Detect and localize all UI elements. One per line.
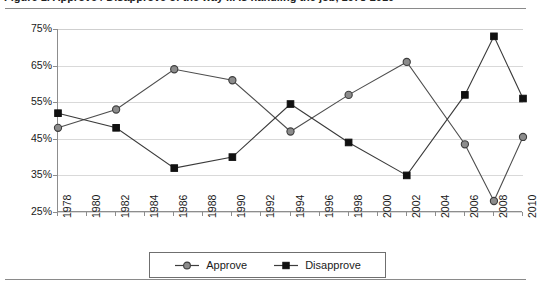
legend-label: Disapprove xyxy=(305,259,361,271)
x-axis-tick-mark xyxy=(319,212,320,216)
x-axis-tick-mark xyxy=(435,212,436,216)
data-point-disapprove xyxy=(462,92,469,99)
legend-item-approve: Approve xyxy=(174,259,247,271)
y-axis-tick-mark xyxy=(53,29,57,30)
legend-item-disapprove: Disapprove xyxy=(273,259,361,271)
y-axis-tick-label: 25% xyxy=(20,205,52,217)
data-point-approve xyxy=(113,106,120,113)
x-axis-tick-label: 1978 xyxy=(61,195,73,218)
legend-marker-square-icon xyxy=(273,260,299,271)
data-point-approve xyxy=(461,141,468,148)
x-axis-tick-mark xyxy=(348,212,349,216)
data-point-disapprove xyxy=(287,101,294,108)
x-axis-tick-label: 1982 xyxy=(119,195,131,218)
x-axis-tick-label: 2008 xyxy=(497,195,509,218)
x-axis-tick-label: 1988 xyxy=(206,195,218,218)
x-axis-tick-mark xyxy=(522,212,523,216)
x-axis-tick-mark xyxy=(377,212,378,216)
x-axis-tick-label: 2006 xyxy=(468,195,480,218)
chart-figure: 75%65%55%45%35%25% 197819801982198419861… xyxy=(0,9,531,277)
data-point-approve xyxy=(287,128,294,135)
data-point-disapprove xyxy=(520,95,527,102)
y-axis-tick-label: 75% xyxy=(20,22,52,34)
plot-area xyxy=(57,29,522,212)
x-axis-tick-mark xyxy=(57,212,58,216)
bottom-divider xyxy=(5,279,526,280)
x-axis-tick-label: 1986 xyxy=(177,195,189,218)
legend-label: Approve xyxy=(206,259,247,271)
x-axis-tick-mark xyxy=(86,212,87,216)
data-point-approve xyxy=(403,58,410,65)
data-point-approve xyxy=(519,133,526,140)
data-point-disapprove xyxy=(113,125,120,132)
x-axis-tick-mark xyxy=(202,212,203,216)
data-point-disapprove xyxy=(491,33,498,40)
x-axis-tick-mark xyxy=(231,212,232,216)
x-axis-tick-label: 1998 xyxy=(352,195,364,218)
x-axis-tick-mark xyxy=(464,212,465,216)
x-axis-tick-label: 1994 xyxy=(294,195,306,218)
y-axis-tick-label: 45% xyxy=(20,132,52,144)
x-axis-tick-label: 2002 xyxy=(410,195,422,218)
chart-legend: ApproveDisapprove xyxy=(149,252,386,278)
data-point-disapprove xyxy=(171,165,178,172)
x-axis-tick-label: 1990 xyxy=(235,195,247,218)
figure-title: Figure 1. Approve / Disapprove of the wa… xyxy=(4,0,394,3)
x-axis-tick-mark xyxy=(493,212,494,216)
x-axis-tick-mark xyxy=(144,212,145,216)
x-axis-tick-mark xyxy=(260,212,261,216)
data-point-approve xyxy=(171,66,178,73)
data-point-approve xyxy=(229,77,236,84)
data-point-disapprove xyxy=(345,139,352,146)
y-axis-tick-label: 55% xyxy=(20,95,52,107)
x-axis-tick-label: 1992 xyxy=(264,195,276,218)
x-axis-tick-mark xyxy=(406,212,407,216)
x-axis-tick-label: 1980 xyxy=(90,195,102,218)
data-point-disapprove xyxy=(55,110,62,117)
legend-marker-circle-icon xyxy=(174,260,200,271)
y-axis-tick-mark xyxy=(53,66,57,67)
y-axis-tick-label: 65% xyxy=(20,59,52,71)
x-axis-tick-label: 2000 xyxy=(381,195,393,218)
data-point-approve xyxy=(345,91,352,98)
y-axis-tick-mark xyxy=(53,175,57,176)
x-axis-tick-label: 1984 xyxy=(148,195,160,218)
x-axis-tick-mark xyxy=(115,212,116,216)
series-layer xyxy=(58,29,523,212)
data-point-approve xyxy=(54,124,61,131)
x-axis-tick-mark xyxy=(173,212,174,216)
y-axis-tick-label: 35% xyxy=(20,168,52,180)
y-axis-tick-mark xyxy=(53,139,57,140)
data-point-disapprove xyxy=(229,154,236,161)
data-point-disapprove xyxy=(403,172,410,179)
x-axis-tick-mark xyxy=(290,212,291,216)
x-axis-tick-label: 2010 xyxy=(526,195,538,218)
y-axis-tick-mark xyxy=(53,102,57,103)
x-axis-tick-label: 1996 xyxy=(323,195,335,218)
x-axis-tick-label: 2004 xyxy=(439,195,451,218)
